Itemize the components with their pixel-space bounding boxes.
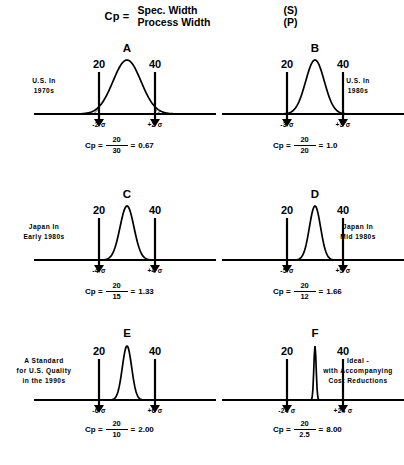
upper-spec-arrow-b bbox=[336, 72, 350, 139]
panel-caption-b: U.S. In1980s bbox=[314, 76, 402, 96]
normal-curve bbox=[107, 346, 145, 400]
cp-denominator: 2.5 bbox=[294, 431, 316, 440]
panel-caption-d: Japan InMid 1980s bbox=[314, 222, 402, 242]
cp-fraction: 2030 bbox=[106, 136, 128, 155]
lower-sigma-label-f: -24 σ bbox=[270, 407, 304, 414]
panel-f: F2040-24 σ+24 σCp =202.5=8.00Ideal -with… bbox=[0, 0, 404, 465]
upper-sigma-label-a: +2 σ bbox=[138, 121, 172, 128]
distribution-plot-f bbox=[220, 342, 404, 416]
caption-line-1: U.S. In bbox=[2, 76, 86, 86]
cp-fraction-bar bbox=[294, 429, 316, 430]
cp-denominator: 30 bbox=[106, 147, 128, 156]
cp-numerator: 20 bbox=[294, 420, 316, 429]
panel-a: A2040-2 σ+2 σCp =2030=0.67U.S. In1970s bbox=[0, 0, 404, 465]
cp-numerator: 20 bbox=[106, 136, 128, 145]
upper-spec-limit-e: 40 bbox=[142, 345, 168, 357]
cp-calculation-f: Cp =202.5=8.00 bbox=[273, 420, 342, 439]
cp-denominator: 10 bbox=[106, 431, 128, 440]
cp-fraction-bar bbox=[106, 429, 128, 430]
caption-line-2: with Accompanying bbox=[314, 366, 402, 376]
cp-label: Cp = bbox=[273, 425, 291, 434]
cp-value: 1.66 bbox=[326, 287, 342, 296]
distribution-plot-d bbox=[220, 202, 404, 276]
panel-letter-c: C bbox=[114, 188, 140, 200]
caption-line-1: Japan In bbox=[314, 222, 402, 232]
upper-spec-arrow-d bbox=[336, 218, 350, 285]
lower-spec-limit-d: 20 bbox=[274, 204, 300, 216]
panel-letter-b: B bbox=[302, 42, 328, 54]
caption-line-1: A Standard bbox=[2, 356, 86, 366]
cp-calculation-d: Cp =2012=1.66 bbox=[273, 282, 342, 301]
caption-line-3: in the 1990s bbox=[2, 376, 86, 386]
cp-equals: = bbox=[131, 425, 136, 434]
cp-fraction: 2015 bbox=[106, 282, 128, 301]
cp-equals: = bbox=[319, 141, 324, 150]
cp-formula-row: Cp = Spec. Width (S) Process Width (P) bbox=[0, 4, 404, 28]
cp-equals: = bbox=[319, 425, 324, 434]
cp-fraction: 2010 bbox=[106, 420, 128, 439]
panel-letter-f: F bbox=[302, 327, 328, 339]
cp-fraction: 2020 bbox=[294, 136, 316, 155]
upper-spec-arrow-f bbox=[336, 359, 350, 425]
normal-curve bbox=[291, 206, 338, 260]
lower-spec-limit-e: 20 bbox=[86, 345, 112, 357]
cp-label: Cp = bbox=[273, 287, 291, 296]
cp-formula-header: Cp = Spec. Width (S) Process Width (P) bbox=[0, 4, 404, 40]
panel-caption-e: A Standardfor U.S. Qualityin the 1990s bbox=[2, 356, 86, 387]
cp-label: Cp = bbox=[85, 141, 103, 150]
lower-sigma-label-c: -4 σ bbox=[82, 267, 116, 274]
cp-calculation-c: Cp =2015=1.33 bbox=[85, 282, 154, 301]
upper-spec-limit-b: 40 bbox=[330, 58, 356, 70]
cp-denominator: 12 bbox=[294, 293, 316, 302]
cp-fraction-bar bbox=[294, 291, 316, 292]
cp-equals: = bbox=[131, 141, 136, 150]
cp-calculation-a: Cp =2030=0.67 bbox=[85, 136, 154, 155]
cp-numerator: 20 bbox=[294, 282, 316, 291]
cp-value: 2.00 bbox=[138, 425, 154, 434]
normal-curve bbox=[310, 346, 319, 400]
distribution-plot-b bbox=[220, 56, 404, 130]
cp-calculation-e: Cp =2010=2.00 bbox=[85, 420, 154, 439]
caption-line-2: 1980s bbox=[314, 86, 402, 96]
cp-value: 0.67 bbox=[138, 141, 154, 150]
cp-formula-fraction: Spec. Width (S) Process Width (P) bbox=[135, 4, 299, 28]
upper-sigma-label-b: +3 σ bbox=[326, 121, 360, 128]
upper-spec-limit-d: 40 bbox=[330, 204, 356, 216]
cp-numerator: 20 bbox=[106, 282, 128, 291]
caption-line-2: for U.S. Quality bbox=[2, 366, 86, 376]
panel-d: D2040-5 σ+5 σCp =2012=1.66Japan InMid 19… bbox=[0, 0, 404, 465]
distribution-plot-e bbox=[32, 342, 222, 416]
cp-numerator: 20 bbox=[106, 420, 128, 429]
upper-spec-arrow-e bbox=[148, 359, 162, 425]
lower-spec-limit-b: 20 bbox=[274, 58, 300, 70]
cp-value: 1.33 bbox=[138, 287, 154, 296]
upper-sigma-label-f: +24 σ bbox=[326, 407, 360, 414]
upper-sigma-label-d: +5 σ bbox=[326, 267, 360, 274]
panel-c: C2040-4 σ+4 σCp =2015=1.33Japan InEarly … bbox=[0, 0, 404, 465]
lower-spec-limit-a: 20 bbox=[86, 58, 112, 70]
spec-width-symbol: (S) bbox=[283, 4, 297, 16]
cp-numerator: 20 bbox=[294, 136, 316, 145]
panel-letter-a: A bbox=[114, 42, 140, 54]
cp-label: Cp = bbox=[273, 141, 291, 150]
panel-caption-a: U.S. In1970s bbox=[2, 76, 86, 96]
lower-sigma-label-b: -3 σ bbox=[270, 121, 304, 128]
distribution-plot-c bbox=[32, 202, 222, 276]
cp-label: Cp = bbox=[85, 425, 103, 434]
cp-formula-label: Cp = bbox=[105, 10, 130, 22]
caption-line-1: U.S. In bbox=[314, 76, 402, 86]
upper-spec-arrow-c bbox=[148, 218, 162, 285]
cp-denominator: 20 bbox=[294, 147, 316, 156]
cp-value: 1.0 bbox=[326, 141, 337, 150]
process-width-label: Process Width bbox=[137, 16, 210, 28]
normal-curve bbox=[38, 60, 216, 114]
caption-line-1: Ideal - bbox=[314, 356, 402, 366]
cp-fraction-bar bbox=[106, 145, 128, 146]
panel-caption-c: Japan InEarly 1980s bbox=[2, 222, 86, 242]
lower-sigma-label-a: -2 σ bbox=[82, 121, 116, 128]
spec-width-label: Spec. Width bbox=[137, 4, 197, 16]
panel-b: B2040-3 σ+3 σCp =2020=1.0U.S. In1980s bbox=[0, 0, 404, 465]
normal-curve bbox=[276, 60, 354, 114]
lower-spec-arrow-e bbox=[92, 359, 106, 425]
upper-spec-limit-c: 40 bbox=[142, 204, 168, 216]
